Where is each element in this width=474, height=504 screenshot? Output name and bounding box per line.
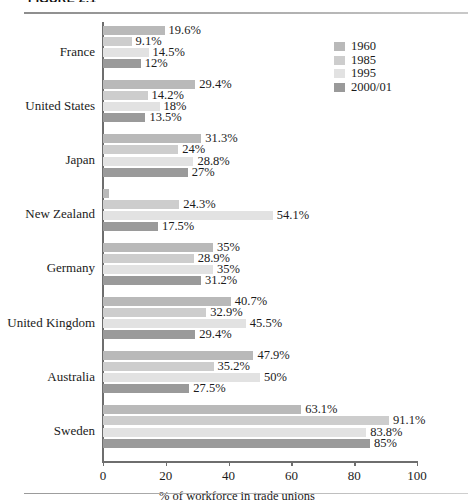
bar	[103, 439, 370, 448]
bar	[103, 243, 213, 252]
bar-value-label: 17.5%	[162, 219, 194, 234]
x-tick	[291, 461, 292, 466]
bar-value-label: 85%	[374, 436, 397, 451]
header-rule	[24, 12, 468, 14]
bar	[103, 373, 260, 382]
x-tick-label: 40	[222, 468, 235, 484]
bar-value-label: 47.9%	[257, 348, 289, 363]
x-tick-label: 0	[100, 468, 107, 484]
x-tick-label: 80	[348, 468, 361, 484]
bar-value-label: 50%	[264, 370, 287, 385]
legend-item: 1985	[334, 54, 392, 68]
x-axis-line	[102, 461, 418, 463]
bar-group: Germany35%28.9%35%31.2%	[0, 243, 474, 297]
bar	[103, 265, 213, 274]
bar-group: Sweden63.1%91.1%83.8%85%	[0, 405, 474, 459]
bar	[103, 189, 109, 198]
bar-value-label: 45.5%	[250, 316, 282, 331]
legend-swatch-1995	[334, 69, 345, 78]
x-tick-label: 100	[407, 468, 427, 484]
x-tick	[417, 461, 418, 466]
bar	[103, 157, 193, 166]
legend-item: 1960	[334, 40, 392, 54]
bar	[103, 222, 158, 231]
x-tick	[229, 461, 230, 466]
bar-value-label: 31.2%	[205, 273, 237, 288]
bar-value-label: 19.6%	[169, 23, 201, 38]
bar	[103, 428, 366, 437]
bar	[103, 308, 206, 317]
x-tick-label: 20	[159, 468, 172, 484]
category-label: Germany	[0, 260, 95, 276]
bar-value-label: 24.3%	[183, 197, 215, 212]
x-tick	[103, 461, 104, 466]
category-label: Australia	[0, 369, 95, 385]
bar	[103, 405, 301, 414]
category-label: Japan	[0, 152, 95, 168]
bar-group: New Zealand24.3%54.1%17.5%	[0, 189, 474, 243]
bar-value-label: 29.4%	[199, 327, 231, 342]
bar	[103, 416, 389, 425]
chart-legend: 1960 1985 1995 2000/01	[334, 40, 392, 94]
bar-group: France19.6%9.1%14.5%12%	[0, 26, 474, 80]
legend-label-1985: 1985	[351, 54, 376, 68]
category-label: France	[0, 44, 95, 60]
chart-plot-area: France19.6%9.1%14.5%12%United States29.4…	[0, 18, 474, 478]
legend-swatch-1985	[334, 56, 345, 65]
legend-item: 2000/01	[334, 81, 392, 95]
bar	[103, 145, 178, 154]
bar	[103, 384, 189, 393]
bar	[103, 200, 179, 209]
legend-swatch-200001	[334, 83, 345, 92]
figure-caption: FIGURE 2.1	[28, 0, 96, 2]
bar	[103, 254, 194, 263]
bar	[103, 91, 148, 100]
footer-rule	[24, 493, 468, 494]
legend-label-1995: 1995	[351, 67, 376, 81]
bar	[103, 276, 201, 285]
legend-swatch-1960	[334, 42, 345, 51]
legend-item: 1995	[334, 67, 392, 81]
bar-group: Australia47.9%35.2%50%27.5%	[0, 351, 474, 405]
bar-value-label: 63.1%	[305, 402, 337, 417]
bar	[103, 330, 195, 339]
bar-group: Japan31.3%24%28.8%27%	[0, 134, 474, 188]
bar-value-label: 29.4%	[199, 77, 231, 92]
bar-value-label: 32.9%	[210, 305, 242, 320]
bar-value-label: 12%	[145, 56, 168, 71]
category-label: United States	[0, 98, 95, 114]
bar	[103, 362, 214, 371]
bar	[103, 59, 141, 68]
bar-value-label: 27.5%	[193, 381, 225, 396]
bar	[103, 113, 145, 122]
x-tick-label: 60	[285, 468, 298, 484]
bar-value-label: 31.3%	[205, 131, 237, 146]
legend-label-200001: 2000/01	[351, 81, 392, 95]
bar-value-label: 35.2%	[218, 359, 250, 374]
bar-group: United States29.4%14.2%18%13.5%	[0, 80, 474, 134]
bar	[103, 37, 132, 46]
category-label: Sweden	[0, 423, 95, 439]
x-axis-title: % of workforce in trade unions	[0, 489, 474, 504]
category-label: New Zealand	[0, 206, 95, 222]
category-label: United Kingdom	[0, 315, 95, 331]
bar	[103, 168, 188, 177]
x-tick	[354, 461, 355, 466]
bar-value-label: 27%	[192, 165, 215, 180]
bar-value-label: 54.1%	[277, 208, 309, 223]
bar-group: United Kingdom40.7%32.9%45.5%29.4%	[0, 297, 474, 351]
x-tick	[166, 461, 167, 466]
bar	[103, 48, 149, 57]
bar-value-label: 13.5%	[149, 110, 181, 125]
legend-label-1960: 1960	[351, 40, 376, 54]
